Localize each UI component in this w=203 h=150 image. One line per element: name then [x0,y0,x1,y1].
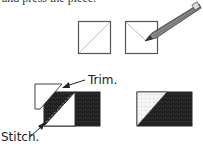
trim-label: Trim. [88,73,117,87]
stitch-label: Stitch. [1,130,39,144]
stitch-assembly [35,84,100,126]
finished-block [137,92,192,126]
square-with-diagonal [79,22,111,54]
trim-arrow [62,80,85,88]
